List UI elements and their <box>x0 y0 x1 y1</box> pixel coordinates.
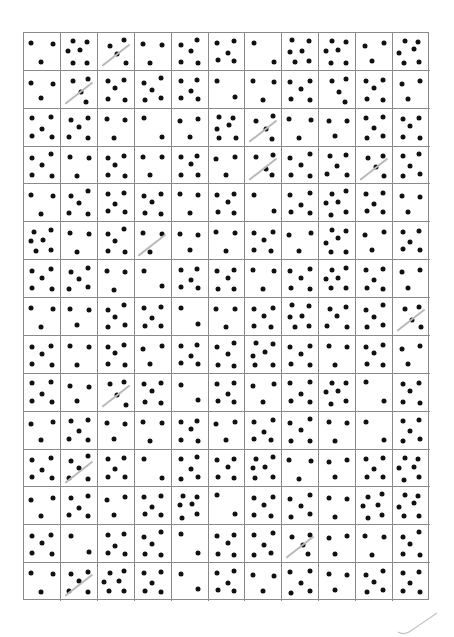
pencil-mark-outside <box>0 0 454 637</box>
